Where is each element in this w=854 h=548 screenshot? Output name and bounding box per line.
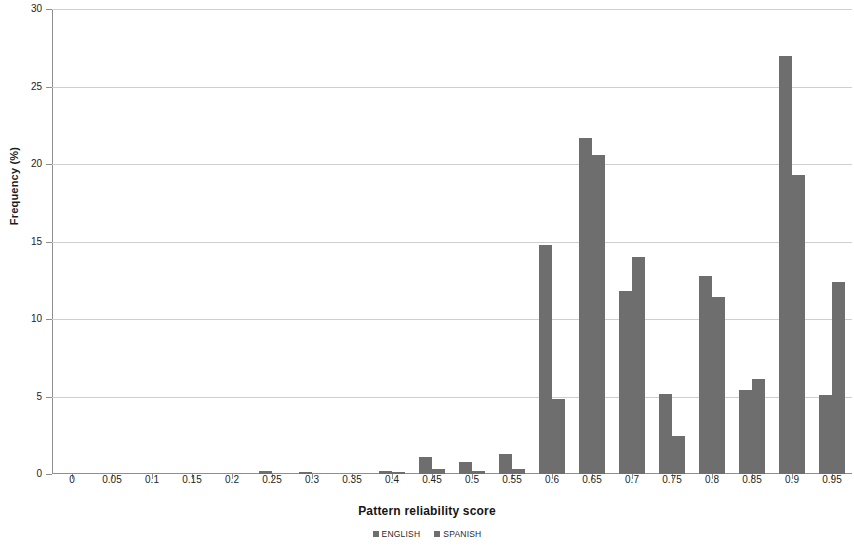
bar-group xyxy=(459,9,485,474)
bar-group xyxy=(779,9,805,474)
legend-label: SPANISH xyxy=(443,529,481,539)
bar-group xyxy=(499,9,525,474)
bar-group xyxy=(419,9,445,474)
bar-english-0.95 xyxy=(819,395,832,474)
y-tick-label: 5 xyxy=(12,391,42,402)
bar-english-0.6 xyxy=(539,245,552,474)
y-tick-label: 25 xyxy=(12,81,42,92)
bar-english-0.85 xyxy=(739,390,752,474)
legend-swatch-icon xyxy=(373,531,379,537)
bar-group xyxy=(219,9,245,474)
y-tick-label: 15 xyxy=(12,236,42,247)
bar-english-0.5 xyxy=(459,462,472,474)
bar-group xyxy=(739,9,765,474)
bar-english-0.8 xyxy=(699,276,712,474)
bar-spanish-0.6 xyxy=(552,399,565,474)
legend-item-english[interactable]: ENGLISH xyxy=(373,529,421,539)
legend-item-spanish[interactable]: SPANISH xyxy=(434,529,481,539)
bar-english-0.45 xyxy=(419,457,432,474)
bar-spanish-0.85 xyxy=(752,379,765,474)
y-tick-label: 10 xyxy=(12,313,42,324)
bar-english-0.65 xyxy=(579,138,592,474)
chart-figure: Frequency (%) 051015202530 Pattern relia… xyxy=(0,0,854,548)
bar-english-0.7 xyxy=(619,291,632,474)
legend-label: ENGLISH xyxy=(382,529,421,539)
bar-group xyxy=(139,9,165,474)
bar-group xyxy=(659,9,685,474)
bar-series-container xyxy=(52,9,852,474)
bar-spanish-0.8 xyxy=(712,297,725,474)
bar-group xyxy=(619,9,645,474)
bar-spanish-0.95 xyxy=(832,282,845,474)
bar-spanish-0.9 xyxy=(792,175,805,474)
y-tick-label: 20 xyxy=(12,158,42,169)
bar-group xyxy=(539,9,565,474)
bar-group xyxy=(299,9,325,474)
bar-group xyxy=(179,9,205,474)
bar-group xyxy=(379,9,405,474)
y-tick-label: 0 xyxy=(12,468,42,479)
bar-group xyxy=(59,9,85,474)
legend-swatch-icon xyxy=(434,531,440,537)
bar-group xyxy=(699,9,725,474)
bar-group xyxy=(339,9,365,474)
bar-spanish-0.7 xyxy=(632,257,645,474)
bar-english-0.75 xyxy=(659,394,672,474)
bar-spanish-0.65 xyxy=(592,155,605,474)
bar-group xyxy=(99,9,125,474)
bar-spanish-0.75 xyxy=(672,436,685,474)
y-tick-label: 30 xyxy=(12,3,42,14)
bar-group xyxy=(259,9,285,474)
bar-english-0.55 xyxy=(499,454,512,474)
bar-group xyxy=(819,9,845,474)
bar-english-0.9 xyxy=(779,56,792,475)
plot-area: 051015202530 xyxy=(52,9,852,474)
x-axis-title: Pattern reliability score xyxy=(0,504,854,518)
bar-group xyxy=(579,9,605,474)
x-tick-label: 0.95 xyxy=(802,474,854,485)
chart-legend: ENGLISHSPANISH xyxy=(0,529,854,539)
y-axis-title: Frequency (%) xyxy=(8,126,20,246)
